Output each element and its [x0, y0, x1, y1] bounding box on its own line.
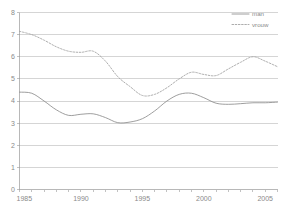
y-tick-label-6: 6: [11, 53, 15, 60]
y-tick-label-1: 1: [11, 164, 15, 171]
chart-canvas: 012345678 19851990199520002005 manvrouw: [0, 0, 283, 215]
x-tick-label-1995: 1995: [135, 195, 151, 202]
x-axis-tick-labels: 19851990199520002005: [17, 195, 274, 202]
series-line-man: [20, 92, 278, 123]
x-tick-label-2005: 2005: [257, 195, 273, 202]
data-series: [20, 31, 278, 123]
x-tick-label-2000: 2000: [196, 195, 212, 202]
y-axis-tick-labels: 012345678: [11, 9, 15, 193]
y-tick-label-3: 3: [11, 120, 15, 127]
legend-label-vrouw: vrouw: [252, 21, 269, 28]
y-tick-label-2: 2: [11, 142, 15, 149]
legend-label-man: man: [252, 10, 265, 17]
y-tick-label-4: 4: [11, 97, 15, 104]
y-tick-label-5: 5: [11, 75, 15, 82]
x-tick-label-1985: 1985: [17, 195, 33, 202]
series-line-vrouw: [20, 31, 278, 96]
x-axis-ticks: [20, 190, 278, 193]
y-tick-label-8: 8: [11, 9, 15, 16]
y-tick-label-0: 0: [11, 186, 15, 193]
x-tick-label-1990: 1990: [73, 195, 89, 202]
line-chart: 012345678 19851990199520002005 manvrouw: [0, 0, 283, 215]
y-tick-label-7: 7: [11, 31, 15, 38]
gridlines: [20, 13, 278, 168]
chart-legend: manvrouw: [232, 10, 269, 28]
